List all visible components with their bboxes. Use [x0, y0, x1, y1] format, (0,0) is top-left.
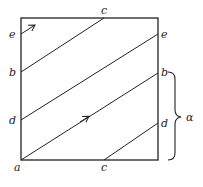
label-right-e: e: [161, 28, 168, 41]
segment-a-to-b: [21, 73, 158, 160]
segment-d-to-e: [21, 34, 158, 120]
label-left-e: e: [9, 28, 16, 41]
label-corner-a: a: [14, 161, 21, 174]
segment-c-to-d: [104, 123, 158, 160]
label-left-d: d: [9, 114, 16, 127]
label-bottom-c: c: [101, 161, 107, 174]
label-left-b: b: [9, 66, 16, 79]
torus-diagram: e b d a c c e b d α: [0, 0, 203, 187]
label-top-c: c: [101, 4, 107, 17]
label-right-d: d: [161, 117, 168, 130]
start-arrow-icon: [21, 25, 35, 34]
label-alpha: α: [186, 111, 194, 124]
brace-icon: [168, 72, 181, 160]
label-right-b: b: [161, 66, 168, 79]
square-boundary: [21, 18, 158, 160]
direction-arrow-icon: [80, 116, 89, 122]
